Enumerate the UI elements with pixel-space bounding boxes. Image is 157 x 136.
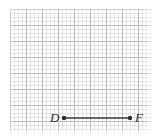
endpoint-d-dot <box>62 116 66 120</box>
point-label-f: F <box>135 111 143 124</box>
geometry-figure: D F <box>0 0 157 136</box>
point-label-d: D <box>50 111 59 124</box>
endpoint-f-dot <box>128 116 132 120</box>
segment-layer <box>0 0 157 136</box>
